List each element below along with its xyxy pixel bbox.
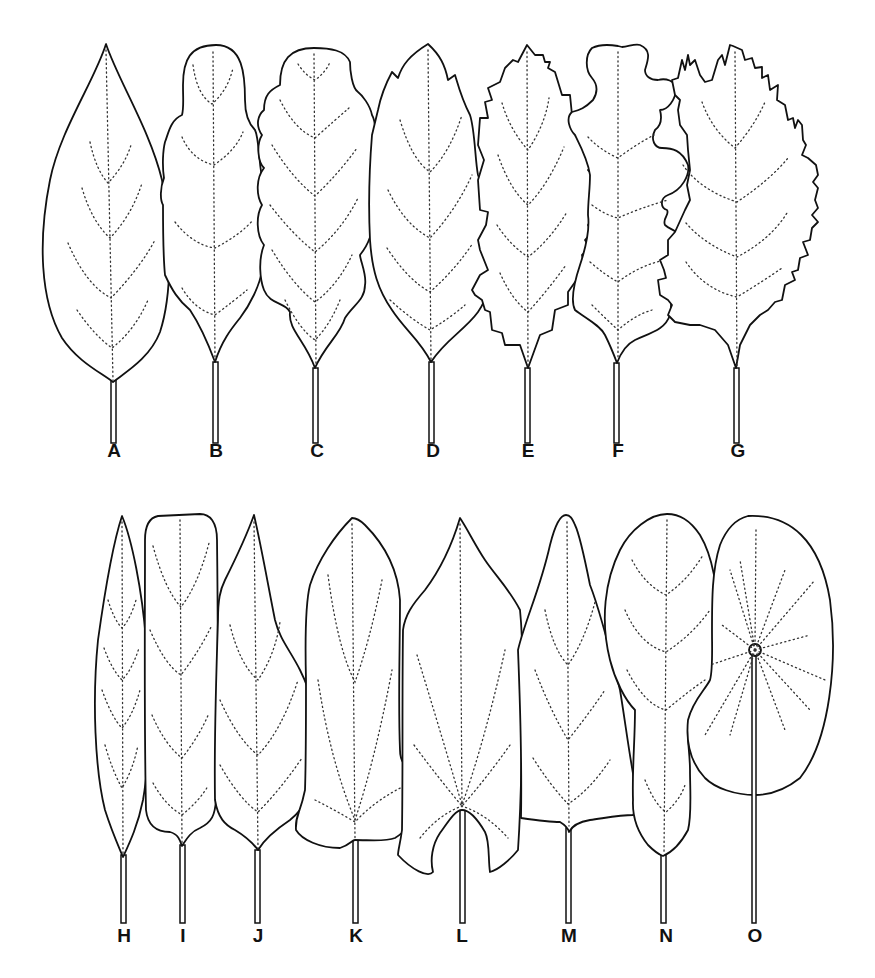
leaf-c [258, 48, 376, 443]
leaf-label-j: J [253, 925, 264, 947]
leaf-diagram: A B C D E F G H I J K L M N O [0, 0, 875, 978]
leaf-label-n: N [659, 925, 673, 947]
leaf-g [658, 45, 818, 443]
leaf-label-i: I [180, 925, 185, 947]
leaf-i [145, 514, 218, 923]
leaf-label-f: F [612, 440, 624, 462]
leaf-a [43, 44, 170, 443]
leaf-label-m: M [561, 925, 577, 947]
leaf-label-a: A [107, 440, 121, 462]
leaf-label-k: K [349, 925, 363, 947]
leaf-drawings [0, 0, 875, 978]
leaf-label-d: D [426, 440, 440, 462]
leaf-j [215, 515, 319, 923]
leaf-d [369, 44, 492, 443]
leaf-label-g: G [731, 440, 746, 462]
leaf-label-e: E [522, 440, 535, 462]
leaf-b [161, 45, 266, 443]
leaf-label-o: O [748, 925, 763, 947]
leaf-e [472, 45, 597, 443]
leaf-label-b: B [209, 440, 223, 462]
leaf-label-l: L [456, 925, 468, 947]
leaf-label-c: C [310, 440, 324, 462]
leaf-label-h: H [117, 925, 131, 947]
leaf-h [95, 516, 149, 923]
leaf-l [398, 518, 522, 923]
